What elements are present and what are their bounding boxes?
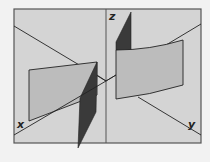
y-axis-label: y	[188, 118, 196, 131]
z-axis-label: z	[108, 10, 116, 23]
x-axis-label: x	[16, 118, 25, 131]
diagram: x z y	[0, 0, 210, 162]
